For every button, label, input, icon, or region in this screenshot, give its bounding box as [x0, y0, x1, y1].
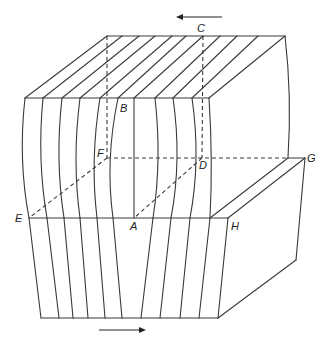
label-H: H: [231, 220, 239, 232]
label-F: F: [97, 147, 105, 159]
lower-front-layers: [29, 218, 228, 318]
point-labels: A B C D E F G H: [15, 22, 316, 232]
shear-block-diagram: A B C D E F G H: [0, 0, 325, 343]
arrow-left-icon: [176, 14, 183, 20]
label-E: E: [15, 212, 23, 224]
label-D: D: [199, 159, 207, 171]
hidden-lines: [29, 36, 288, 218]
label-A: A: [129, 220, 137, 232]
bottom-shear-arrow: [99, 327, 146, 333]
label-C: C: [197, 22, 205, 34]
label-G: G: [307, 152, 316, 164]
top-shear-arrow: [176, 14, 222, 20]
right-upper-edge: [285, 36, 289, 158]
label-B: B: [120, 102, 127, 114]
lower-right-face: [218, 158, 305, 318]
top-face: [25, 36, 285, 98]
arrow-right-icon: [139, 327, 146, 333]
shelf: [210, 158, 305, 218]
